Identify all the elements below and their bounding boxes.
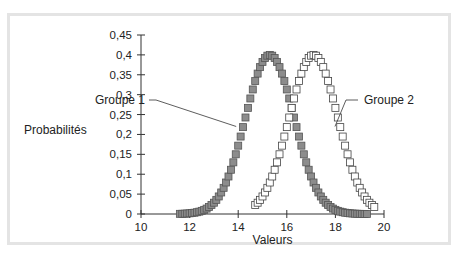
data-point xyxy=(293,86,300,93)
data-point xyxy=(344,151,351,158)
data-point xyxy=(244,104,251,111)
data-point xyxy=(298,70,305,77)
y-axis-title: Probabilités xyxy=(24,123,87,137)
x-tick-label: 20 xyxy=(378,221,391,233)
x-tick-label: 12 xyxy=(183,221,196,233)
data-point xyxy=(291,95,298,102)
x-tick-label: 18 xyxy=(329,221,342,233)
data-point xyxy=(278,70,285,77)
y-tick-label: 0,1 xyxy=(116,168,132,180)
data-point xyxy=(252,78,259,85)
data-point xyxy=(283,124,290,131)
data-point xyxy=(240,124,247,131)
y-tick-label: 0 xyxy=(126,208,132,220)
data-point xyxy=(281,78,288,85)
data-point xyxy=(276,151,283,158)
x-tick-label: 10 xyxy=(135,221,148,233)
y-tick-label: 0,2 xyxy=(116,128,132,140)
data-point xyxy=(276,64,283,71)
data-point xyxy=(339,133,346,140)
data-point xyxy=(271,166,278,173)
y-tick-label: 0,4 xyxy=(116,49,133,61)
data-point xyxy=(346,159,353,166)
y-tick-label: 0,25 xyxy=(110,109,132,121)
data-point xyxy=(295,133,302,140)
data-point xyxy=(286,114,293,121)
data-point xyxy=(249,86,256,93)
x-tick-label: 14 xyxy=(232,221,245,233)
data-point xyxy=(342,142,349,149)
data-point xyxy=(283,86,290,93)
y-tick-label: 0,05 xyxy=(110,188,132,200)
data-point xyxy=(254,70,261,77)
data-point xyxy=(300,151,307,158)
data-point xyxy=(227,166,234,173)
data-point xyxy=(332,104,339,111)
x-tick-label: 16 xyxy=(280,221,293,233)
data-point xyxy=(269,173,276,180)
data-point xyxy=(278,142,285,149)
data-point xyxy=(320,64,327,71)
data-point xyxy=(349,166,356,173)
data-point xyxy=(327,86,334,93)
annotation-groupe-1: Groupe 1 xyxy=(95,93,145,107)
data-point xyxy=(288,104,295,111)
data-point xyxy=(337,124,344,131)
data-point xyxy=(247,95,254,102)
y-tick-label: 0,15 xyxy=(110,148,132,160)
data-point xyxy=(242,114,249,121)
data-point xyxy=(322,70,329,77)
data-point xyxy=(230,159,237,166)
y-tick-label: 0,35 xyxy=(110,69,132,81)
data-point xyxy=(303,159,310,166)
annotation-groupe-2: Groupe 2 xyxy=(364,93,414,107)
data-point xyxy=(329,95,336,102)
data-point xyxy=(325,78,332,85)
y-tick-label: 0,45 xyxy=(110,29,132,41)
chart-svg: 10121416182000,050,10,150,20,250,30,350,… xyxy=(0,0,461,269)
plot-area xyxy=(176,51,377,217)
data-point xyxy=(298,142,305,149)
data-point xyxy=(371,204,378,211)
data-point xyxy=(274,159,281,166)
data-point xyxy=(232,151,239,158)
data-point xyxy=(305,166,312,173)
data-point xyxy=(235,142,242,149)
data-point xyxy=(363,210,370,217)
data-point xyxy=(225,173,232,180)
data-point xyxy=(281,133,288,140)
data-point xyxy=(295,78,302,85)
data-point xyxy=(293,124,300,131)
data-point xyxy=(237,133,244,140)
x-axis-title: Valeurs xyxy=(253,233,293,247)
